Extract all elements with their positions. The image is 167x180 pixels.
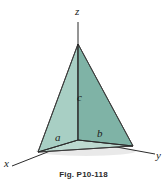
edge-label-b: b — [97, 128, 103, 139]
axis-label-x: x — [4, 158, 9, 169]
edge-label-c: c — [77, 92, 82, 103]
tetrahedron-diagram — [0, 0, 167, 180]
figure-container: z y x a b c Fig. P10-118 — [0, 0, 167, 180]
figure-caption: Fig. P10-118 — [0, 170, 167, 179]
edge-label-a: a — [55, 132, 61, 143]
axis-label-z: z — [75, 6, 79, 17]
axis-label-y: y — [156, 150, 161, 161]
